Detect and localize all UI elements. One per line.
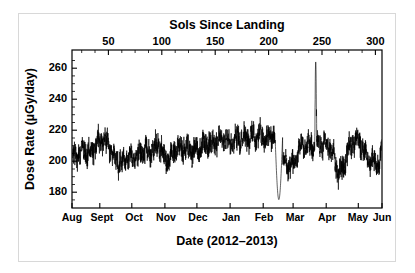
bottom-tick-label-jan: Jan (222, 211, 240, 223)
y-axis-group: 260 240 220 200 180 Dose Rate (µGy/day) (23, 61, 77, 200)
y-tick-label-180: 180 (49, 185, 67, 197)
plot-frame (72, 50, 382, 208)
y-axis-title: Dose Rate (µGy/day) (23, 68, 37, 190)
dose-rate-chart: 260 240 220 200 180 Dose Rate (µGy/day) (0, 0, 415, 273)
data-series-group (72, 62, 382, 200)
y-tick-label-220: 220 (49, 123, 67, 135)
top-axis-title: Sols Since Landing (169, 18, 284, 32)
bottom-tick-label-mar: Mar (286, 211, 305, 223)
x-axis-title: Date (2012–2013) (176, 234, 277, 248)
top-tick-label-200: 200 (259, 35, 277, 47)
y-tick-label-240: 240 (49, 92, 67, 104)
bottom-tick-label-feb: Feb (255, 211, 274, 223)
top-tick-label-100: 100 (153, 35, 171, 47)
y-tick-label-200: 200 (49, 154, 67, 166)
bottom-tick-label-may: May (348, 211, 369, 223)
bottom-axis-group: Aug Sept Oct Nov Dec Jan Feb Mar Apr May… (62, 203, 392, 248)
y-major-ticks (72, 68, 77, 192)
bottom-tick-label-jun: Jun (373, 211, 392, 223)
bottom-tick-label-nov: Nov (156, 211, 176, 223)
y-tick-label-260: 260 (49, 61, 67, 73)
bottom-tick-label-dec: Dec (188, 211, 207, 223)
dose-rate-trace (72, 62, 382, 200)
top-tick-label-300: 300 (366, 35, 384, 47)
figure-root: 260 240 220 200 180 Dose Rate (µGy/day) (0, 0, 415, 273)
bottom-tick-label-aug: Aug (62, 211, 82, 223)
bottom-tick-label-sept: Sept (91, 211, 114, 223)
top-tick-label-50: 50 (102, 35, 114, 47)
top-tick-label-150: 150 (206, 35, 224, 47)
top-tick-label-250: 250 (313, 35, 331, 47)
bottom-tick-label-oct: Oct (125, 211, 143, 223)
bottom-month-ticks (72, 203, 382, 208)
bottom-tick-label-apr: Apr (318, 211, 336, 223)
